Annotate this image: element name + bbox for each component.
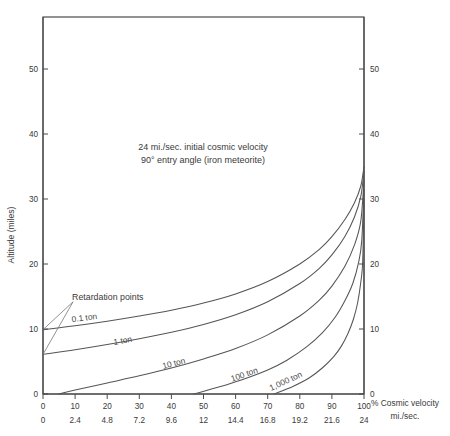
x-tick-label-percent: 100 [357, 402, 371, 411]
x-tick-label-percent: 10 [71, 402, 81, 411]
x-tick-label-percent: 0 [41, 402, 46, 411]
x-tick-label-percent: 50 [199, 402, 209, 411]
y-axis-title: Altitude (miles) [6, 206, 16, 263]
x-tick-label-velocity: 4.8 [102, 416, 114, 425]
x-tick-label-velocity: 16.8 [260, 416, 276, 425]
chart-title: 24 mi./sec. initial cosmic velocity [138, 142, 268, 152]
x-tick-label-percent: 90 [327, 402, 337, 411]
y-tick-label-left: 30 [29, 195, 39, 204]
x-axis-title-units: mi./sec. [391, 411, 420, 421]
x-tick-label-percent: 40 [167, 402, 177, 411]
y-tick-label-left: 50 [29, 65, 39, 74]
y-tick-label-right: 30 [370, 195, 380, 204]
x-tick-label-percent: 30 [135, 402, 145, 411]
y-tick-label-left: 20 [29, 260, 39, 269]
meteorite-deceleration-chart: 01020304050 01020304050 00102.4204.8307.… [0, 0, 450, 436]
y-tick-label-left: 40 [29, 130, 39, 139]
x-tick-label-velocity: 0 [41, 416, 46, 425]
x-tick-label-velocity: 9.6 [166, 416, 178, 425]
x-tick-label-velocity: 2.4 [69, 416, 81, 425]
x-axis-ticks: 00102.4204.8307.2409.650126014.47016.880… [41, 394, 372, 425]
x-tick-label-percent: 20 [103, 402, 113, 411]
x-tick-label-percent: 70 [263, 402, 273, 411]
x-tick-label-velocity: 24 [359, 416, 369, 425]
y-tick-label-right: 50 [370, 65, 380, 74]
y-tick-label-left: 10 [29, 325, 39, 334]
retardation-label: Retardation points [72, 292, 144, 302]
x-tick-label-velocity: 14.4 [228, 416, 244, 425]
x-tick-label-velocity: 7.2 [134, 416, 146, 425]
x-axis-title: % Cosmic velocity [371, 398, 440, 408]
x-tick-label-percent: 80 [295, 402, 305, 411]
x-tick-label-velocity: 12 [199, 416, 209, 425]
chart-page: 01020304050 01020304050 00102.4204.8307.… [0, 0, 450, 436]
y-tick-label-left: 0 [33, 390, 38, 399]
plot-frame [43, 17, 364, 394]
y-tick-label-right: 40 [370, 130, 380, 139]
x-tick-label-velocity: 21.6 [324, 416, 340, 425]
chart-subtitle: 90° entry angle (iron meteorite) [141, 155, 265, 165]
y-tick-label-right: 10 [370, 325, 380, 334]
x-tick-label-velocity: 19.2 [292, 416, 308, 425]
x-tick-label-percent: 60 [231, 402, 241, 411]
y-tick-label-right: 20 [370, 260, 380, 269]
